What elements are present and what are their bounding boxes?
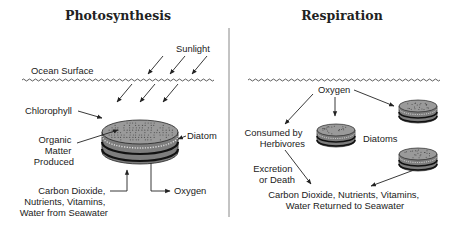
inputs-label: Carbon Dioxide, Nutrients, Vitamins, Wat… [20,185,108,218]
sunlight-arrows-above [148,56,207,74]
returned-label: Carbon Dioxide, Nutrients, Vitamins, Wat… [268,189,422,211]
sunlight-arrow [148,56,163,74]
sunlight-arrow [170,56,185,74]
sunlight-arrows-below [117,84,178,102]
ocean-surface-wave-right [248,79,440,81]
oxygen-output-label: Oxygen [174,185,206,196]
oxygen-to-diatom-arrow [354,90,394,106]
diatom-small [317,124,355,147]
diatom-return-arrow [371,170,414,186]
diatom-small [399,148,437,171]
respiration-panel: Respiration Oxygen Consumed by Herbivore… [245,8,440,211]
diagram: Photosynthesis Sunlight Ocean Surface Ch… [0,0,459,227]
sunlight-arrow [192,56,207,74]
diatom-pointer [178,136,186,139]
respiration-title: Respiration [301,8,383,23]
diagram-canvas: Photosynthesis Sunlight Ocean Surface Ch… [0,0,459,227]
ocean-surface-label: Ocean Surface [31,65,94,76]
diatoms-label: Diatoms [363,133,398,144]
photosynthesis-title: Photosynthesis [65,8,171,23]
excretion-label: Excretion or Death [253,163,295,185]
ocean-surface-wave [22,79,214,81]
chlorophyll-label: Chlorophyll [25,105,72,116]
sunlight-label: Sunlight [176,43,210,54]
oxygen-output-arrow [151,163,170,191]
chlorophyll-pointer [78,111,102,118]
oxygen-to-herbivores-arrow [285,94,313,124]
organic-matter-label: Organic Matter Produced [34,134,74,167]
sunlight-arrow [163,84,178,102]
photosynthesis-panel: Photosynthesis Sunlight Ocean Surface Ch… [20,8,217,218]
diatom-label: Diatom [187,130,217,141]
diatom-small [399,100,437,123]
consumed-label: Consumed by Herbivores [245,127,306,149]
sunlight-arrow [117,84,132,102]
oxygen-source-label: Oxygen [318,84,350,95]
sunlight-arrow [140,84,155,102]
diatom-large [102,120,178,164]
inputs-arrow [110,170,127,191]
